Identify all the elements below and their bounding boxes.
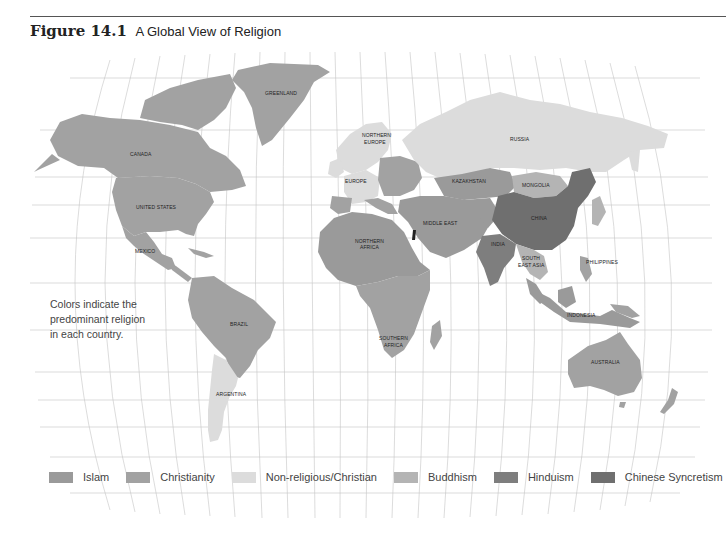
legend-item-chinese-syncretism: Chinese Syncretism [591,471,723,483]
label-india: INDIA [491,241,505,247]
asia [398,168,640,328]
label-china: CHINA [531,215,548,221]
label-mexico: MEXICO [135,248,155,254]
label-indonesia: INDONESIA [567,312,596,318]
south-america [188,276,276,442]
region-greenland[interactable] [232,63,330,146]
region-kamchatka [628,150,640,172]
label-northern-africa-2: AFRICA [360,244,379,250]
legend-swatch-buddhism [394,472,418,483]
legend-item-buddhism: Buddhism [394,471,477,483]
legend: Islam Christianity Non-religious/Christi… [49,470,726,484]
region-caribbean [188,248,214,258]
label-argentina: ARGENTINA [216,391,247,397]
label-brazil: BRAZIL [230,321,248,327]
legend-item-hinduism: Hinduism [494,471,574,483]
label-northern-europe-1: NORTHERN [362,132,391,138]
legend-item-nonreligious-christian: Non-religious/Christian [232,471,377,483]
region-korea-japan [592,196,606,226]
label-kazakhstan: KAZAKHSTAN [452,178,486,184]
region-new-zealand [660,388,678,414]
region-brazil[interactable] [188,276,276,378]
region-israel [412,230,416,240]
region-tasmania [619,402,626,408]
label-russia: RUSSIA [510,136,530,142]
label-canada: CANADA [130,151,152,157]
region-madagascar [430,320,442,350]
label-middle-east: MIDDLE EAST [423,220,457,226]
label-australia: AUSTRALIA [591,359,620,365]
legend-label: Non-religious/Christian [266,471,377,483]
legend-swatch-hinduism [494,472,518,483]
legend-item-islam: Islam [49,471,109,483]
label-mongolia: MONGOLIA [522,182,550,188]
legend-label: Hinduism [528,471,574,483]
oceania [568,332,678,414]
label-southern-africa-2: AFRICA [384,342,403,348]
label-south-east-asia-2: EAST ASIA [518,262,545,268]
note-line-3: in each country. [50,327,170,342]
label-greenland: GREENLAND [265,90,297,96]
label-philippines: PHILIPPINES [586,259,619,265]
region-russia[interactable] [402,92,668,180]
label-united-states: UNITED STATES [136,204,177,210]
legend-label: Buddhism [428,471,477,483]
region-eastern-europe [378,156,422,196]
note-line-2: predominant religion [50,312,170,327]
legend-swatch-christianity [126,472,150,483]
region-iberia [330,196,352,214]
legend-label: Chinese Syncretism [625,471,723,483]
note-line-1: Colors indicate the [50,297,170,312]
legend-label: Islam [83,471,109,483]
world-map: GREENLAND CANADA UNITED STATES MEXICO BR… [0,0,726,541]
label-europe: EUROPE [345,178,367,184]
region-central-america [168,262,192,282]
region-borneo [558,286,576,308]
legend-swatch-islam [49,472,73,483]
label-southern-africa-1: SOUTHERN [379,335,408,341]
map-note: Colors indicate the predominant religion… [50,297,170,342]
legend-swatch-chinese-syncretism [591,472,615,483]
legend-label: Christianity [160,471,214,483]
label-south-east-asia-1: SOUTH [522,255,540,261]
region-alaska-tail [34,154,60,172]
label-northern-europe-2: EUROPE [364,139,386,145]
legend-swatch-nonreligious-christian [232,472,256,483]
legend-item-christianity: Christianity [126,471,214,483]
